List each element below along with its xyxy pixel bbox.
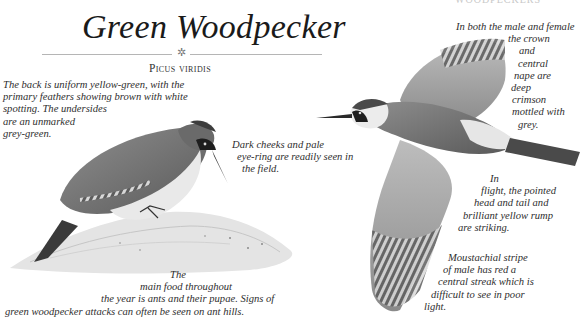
annotation-flight: In flight, the pointed head and tail and… — [458, 173, 556, 234]
annotation-line: eye-ring are readily seen in — [230, 151, 353, 163]
annotation-line: the crown — [456, 33, 575, 45]
annotation-line: green woodpecker attacks can often be se… — [5, 306, 274, 318]
annotation-line: spotting. The undersides — [3, 103, 188, 115]
annotation-line: mottled with — [456, 106, 575, 118]
annotation-moustache: Moustachial stripe of male has red a cen… — [424, 252, 534, 313]
field-guide-page: WOODPECKERS Green Woodpecker ✲ Picus vir… — [0, 0, 585, 324]
annotation-line: grey-green. — [3, 128, 188, 140]
annotation-line: The — [5, 269, 274, 281]
annotation-crown: In both the male and female the crown an… — [456, 21, 575, 131]
annotation-line: The back is uniform yellow-green, with t… — [3, 79, 188, 91]
annotation-line: are striking. — [458, 222, 556, 234]
annotation-line: In — [458, 173, 556, 185]
annotation-line: In both the male and female — [456, 21, 575, 33]
annotation-food: The main food throughout the year is ant… — [5, 269, 274, 318]
annotation-line: light. — [424, 301, 534, 313]
annotation-line: nape are — [456, 70, 575, 82]
annotation-line: the field. — [230, 163, 353, 175]
annotation-line: Moustachial stripe — [424, 252, 534, 264]
annotation-cheeks: Dark cheeks and pale eye-ring are readil… — [230, 139, 353, 176]
annotation-line: flight, the pointed — [458, 185, 556, 197]
annotation-line: are an unmarked — [3, 116, 188, 128]
annotation-line: difficult to see in poor — [424, 289, 534, 301]
annotation-back-plumage: The back is uniform yellow-green, with t… — [3, 79, 188, 140]
annotation-line: grey. — [456, 119, 575, 131]
annotation-line: deep — [456, 82, 575, 94]
annotation-line: and — [456, 45, 575, 57]
annotation-line: Dark cheeks and pale — [230, 139, 353, 151]
annotation-line: head and tail and — [458, 197, 556, 209]
annotation-line: crimson — [456, 94, 575, 106]
annotation-line: of male has red a — [424, 264, 534, 276]
annotation-line: central — [456, 58, 575, 70]
annotation-line: the year is ants and their pupae. Signs … — [5, 293, 274, 305]
annotation-line: primary feathers showing brown with whit… — [3, 91, 188, 103]
annotation-line: main food throughout — [5, 281, 274, 293]
annotation-line: central streak which is — [424, 276, 534, 288]
annotation-line: brilliant yellow rump — [458, 210, 556, 222]
